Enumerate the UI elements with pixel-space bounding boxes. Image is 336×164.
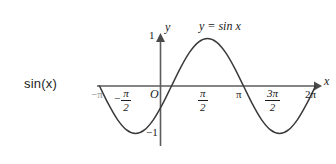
x-tick-three-half-pi-label: 3π 2 — [265, 88, 280, 113]
fraction-numerator: π — [121, 88, 131, 101]
fraction-denominator: 2 — [123, 101, 129, 113]
figure-canvas: sin(x) y x 1 −1 O −π − π 2 π 2 π 3π — [0, 0, 336, 164]
fraction: 3π 2 — [265, 88, 280, 113]
fraction-denominator: 2 — [270, 101, 276, 113]
minus-sign: − — [114, 88, 121, 104]
x-tick-two-pi-label: 2π — [305, 88, 316, 100]
x-tick-neg-pi-label: −π — [91, 88, 103, 100]
curve-equation-label: y = sin x — [199, 19, 241, 34]
x-tick-neg-half-pi-label: − π 2 — [114, 88, 131, 113]
y-tick-one-label: 1 — [149, 29, 155, 41]
fraction-numerator: 3π — [265, 88, 280, 101]
fraction-denominator: 2 — [200, 101, 206, 113]
x-tick-half-pi-label: π 2 — [198, 88, 208, 113]
fraction: π 2 — [121, 88, 131, 113]
fraction-numerator: π — [198, 88, 208, 101]
x-tick-pi-label: π — [236, 88, 242, 100]
x-axis-label: x — [324, 74, 329, 89]
origin-label: O — [150, 87, 159, 102]
fraction: π 2 — [198, 88, 208, 113]
y-axis-arrowhead — [156, 33, 165, 42]
y-tick-minus-one-label: −1 — [146, 126, 158, 138]
y-axis-label: y — [165, 20, 170, 35]
axes-group — [97, 33, 322, 146]
